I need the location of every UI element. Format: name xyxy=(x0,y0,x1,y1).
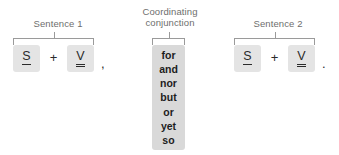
conjunction-word: so xyxy=(162,133,174,147)
subject-token-1: S xyxy=(13,45,40,72)
subject-glyph: S xyxy=(22,50,30,65)
bracket-stem xyxy=(54,32,55,39)
sentence-1-label: Sentence 1 xyxy=(8,18,108,29)
sentence-1-tokens: S + V xyxy=(13,45,94,72)
plus-icon-1: + xyxy=(40,51,67,64)
verb-token-2: V xyxy=(288,45,315,72)
subject-glyph: S xyxy=(243,50,251,65)
conjunction-word: for xyxy=(162,48,176,62)
conjunction-word: yet xyxy=(161,119,176,133)
sentence-2-bracket xyxy=(234,38,315,45)
comma-punctuation: , xyxy=(101,57,105,70)
verb-glyph: V xyxy=(297,50,305,65)
conjunction-word-list: for and nor but or yet so xyxy=(152,45,185,150)
conjunction-word: or xyxy=(163,105,174,119)
sentence-1-bracket xyxy=(13,38,94,45)
conjunction-bracket xyxy=(152,38,185,45)
conjunction-word: and xyxy=(159,62,178,76)
period-punctuation: . xyxy=(322,57,326,70)
bracket-stem xyxy=(275,32,276,39)
bracket-stem xyxy=(169,32,170,39)
conjunction-word: nor xyxy=(160,76,177,90)
subject-token-2: S xyxy=(234,45,261,72)
sentence-2-label: Sentence 2 xyxy=(228,18,328,29)
compound-sentence-diagram: Sentence 1 S + V , Coordinating conjunct… xyxy=(0,0,339,155)
plus-icon-2: + xyxy=(261,51,288,64)
verb-token-1: V xyxy=(67,45,94,72)
conjunction-word: but xyxy=(160,90,176,104)
verb-glyph: V xyxy=(76,50,84,65)
sentence-2-tokens: S + V xyxy=(234,45,315,72)
coordinating-conjunction-label: Coordinating conjunction xyxy=(128,6,212,28)
